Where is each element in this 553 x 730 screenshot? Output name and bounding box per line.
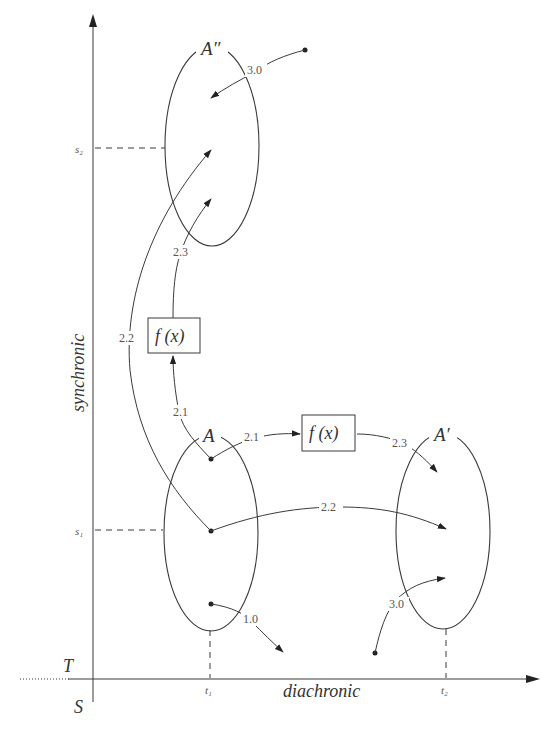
corner-label-S: S [74,697,83,717]
horizontal-axis-arrowhead [526,675,540,683]
label-A: A [201,425,215,446]
label-arrow-2-3-vertical: 2.3 [173,245,188,259]
vertical-axis-label: synchronic [68,334,88,412]
label-A-prime: A′ [432,424,451,445]
label-arrow-2-1-vertical: 2.1 [173,405,188,419]
horizontal-axis-label: diachronic [283,681,360,701]
set-A-prime [396,433,490,629]
label-arrow-2-2-vertical: 2.2 [119,331,134,345]
label-arrow-2-2-horizontal: 2.2 [321,500,336,514]
label-arrow-2-1-horizontal: 2.1 [244,430,259,444]
function-box-horizontal-label: f (x) [309,423,338,444]
label-arrow-3-0-bottom: 3.0 [389,597,404,611]
tick-s1: s₁ [75,525,83,537]
arrow-3-0-bottom [375,578,445,653]
set-A-double-prime [165,46,259,246]
tick-t1: t₁ [205,684,212,696]
label-arrow-1-0: 1.0 [243,612,258,626]
corner-label-T: T [63,656,75,676]
vertical-axis-arrowhead [89,14,97,27]
label-arrow-2-3-horizontal: 2.3 [392,436,407,450]
synchronic-diachronic-diagram: synchronic diachronic T S s₂ s₁ t₁ t₂ A″… [0,0,553,730]
tick-t2: t₂ [441,684,448,696]
function-box-vertical-label: f (x) [155,326,184,347]
label-A-double-prime: A″ [199,38,222,59]
axes [20,14,540,702]
label-arrow-3-0-top: 3.0 [247,63,262,77]
tick-s2: s₂ [75,143,83,155]
